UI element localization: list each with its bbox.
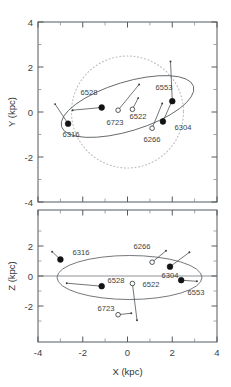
label-6266-xy: 6266: [144, 135, 161, 144]
vector-head-6723-xy: [138, 84, 140, 86]
xy-ytick-label-neg2: -2: [25, 152, 33, 163]
label-6522-xy: 6522: [130, 112, 147, 121]
vector-head-6266-xz: [165, 250, 167, 252]
vector-head-6266-xy: [161, 103, 163, 105]
xz-panel-z-axis-label: Z (kpc): [6, 261, 17, 291]
xz-xtick-label-neg2: -2: [79, 347, 87, 358]
label-6553-xy: 6553: [156, 83, 173, 92]
marker-6316-xy[interactable]: [65, 121, 71, 127]
xz-ztick-label-0: 0: [28, 271, 33, 282]
marker-6528-xy[interactable]: [99, 105, 105, 111]
marker-6553-xy[interactable]: [169, 98, 175, 104]
vector-head-6522-xz: [136, 319, 138, 321]
vector-head-6316-xy: [54, 103, 56, 105]
marker-6522-xz[interactable]: [130, 281, 135, 286]
label-6316-xz: 6316: [73, 248, 90, 257]
vector-head-6528-xz: [66, 282, 68, 284]
label-6316-xy: 6316: [63, 130, 80, 139]
xy-panel-y-axis-label: Y (kpc): [6, 97, 17, 127]
xz-xtick-label-4: 4: [214, 347, 219, 358]
marker-6266-xz[interactable]: [150, 260, 155, 265]
xz-xtick-label-2: 2: [170, 347, 175, 358]
marker-6304-xz[interactable]: [167, 264, 173, 270]
vector-head-6304-xz: [188, 251, 190, 253]
vector-head-6528-xy: [72, 109, 74, 111]
xy-ytick-label-2: 2: [28, 62, 33, 73]
marker-6723-xz[interactable]: [116, 312, 121, 317]
marker-6723-xy[interactable]: [116, 108, 121, 113]
vector-head-6723-xz: [130, 312, 132, 314]
label-6266-xz: 6266: [134, 242, 151, 251]
xz-xtick-label-0: 0: [125, 347, 130, 358]
label-6528-xy: 6528: [81, 88, 98, 97]
vector-head-6316-xz: [51, 251, 53, 253]
vector-head-6553-xy: [170, 60, 172, 62]
marker-6304-xy[interactable]: [160, 119, 166, 125]
label-6304-xy: 6304: [175, 123, 192, 132]
xy-ytick-label-4: 4: [28, 17, 33, 28]
xz-ztick-label-neg2: -2: [25, 301, 33, 312]
label-6723-xy: 6723: [107, 118, 124, 127]
marker-6522-xy[interactable]: [130, 107, 135, 112]
label-6304-xz: 6304: [162, 271, 179, 280]
label-6528-xz: 6528: [108, 276, 125, 285]
xz-panel-x-axis-label: X (kpc): [112, 366, 142, 377]
marker-6316-xz[interactable]: [58, 257, 64, 263]
marker-6553-xz[interactable]: [178, 277, 184, 283]
xy-ytick-label-0: 0: [28, 107, 33, 118]
figure-background: [0, 0, 231, 387]
xy-ytick-label-neg4: -4: [25, 197, 33, 208]
vector-head-6522-xy: [137, 97, 139, 99]
label-6723-xz: 6723: [98, 304, 115, 313]
xz-xtick-label-neg4: -4: [34, 347, 42, 358]
two-panel-scatter-figure: 4 2 0 -2 -4 Y (kpc): [0, 0, 231, 387]
label-6522-xz: 6522: [143, 280, 160, 289]
label-6553-xz: 6553: [188, 288, 205, 297]
xz-ztick-label-2: 2: [28, 241, 33, 252]
vector-head-6553-xz: [196, 280, 198, 282]
marker-6266-xy[interactable]: [150, 126, 155, 131]
marker-6528-xz[interactable]: [99, 283, 105, 289]
